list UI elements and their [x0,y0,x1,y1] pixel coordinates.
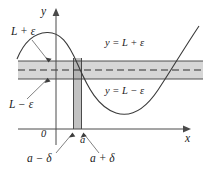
lower-bound-label: L − ε [9,99,33,111]
origin-label: 0 [41,129,46,140]
point-a-label: a [80,135,85,146]
a-minus-delta-label: a − δ [27,153,52,165]
upper-bound-label: L + ε [11,26,35,38]
x-axis-label: x [185,133,190,145]
a-minus-delta-arrowhead [69,133,75,138]
y-axis-arrowhead [53,8,60,16]
a-plus-delta-label: a + δ [90,153,115,165]
a-plus-delta-leader [84,134,99,153]
limit-definition-figure: y x 0 L + ε L − ε y = L + ε y = L − ε a … [0,0,207,178]
y-axis-label: y [41,6,46,18]
lower-bound-leader [27,79,48,99]
band-top-equation-label: y = L + ε [105,38,144,49]
band-bottom-equation-label: y = L − ε [105,86,144,97]
